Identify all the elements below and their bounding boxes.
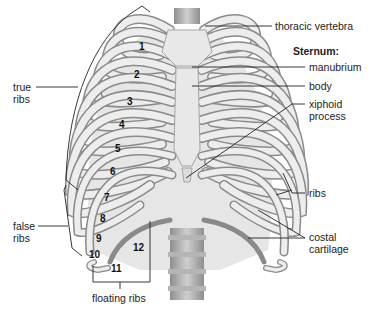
rib-number-7: 7 [104, 193, 110, 203]
label-true-ribs-line1: true [13, 81, 31, 93]
label-false-ribs-line1: false [13, 220, 35, 232]
label-xiphoid-line1: xiphoid [309, 98, 342, 110]
rib-number-12: 12 [133, 243, 144, 253]
rib-number-2: 2 [134, 70, 140, 80]
rib-number-11: 11 [111, 264, 122, 274]
rib-number-6: 6 [110, 167, 116, 177]
label-xiphoid-line2: process [309, 110, 346, 122]
label-ribs: ribs [309, 187, 326, 199]
label-sternum-heading: Sternum: [293, 45, 339, 57]
rib-number-10: 10 [89, 250, 100, 260]
label-sternum-body: body [309, 80, 332, 92]
label-false-ribs-line2: ribs [13, 232, 30, 244]
rib-number-4: 4 [119, 120, 125, 130]
rib-number-1: 1 [139, 42, 145, 52]
label-manubrium: manubrium [309, 61, 362, 73]
label-costal-line2: cartilage [309, 243, 349, 255]
label-floating-ribs: floating ribs [92, 292, 146, 304]
thoracic-cage-diagram: thoracic vertebra Sternum: manubrium bod… [0, 0, 376, 314]
rib-number-3: 3 [127, 97, 133, 107]
rib-number-5: 5 [115, 144, 121, 154]
rib-number-9: 9 [96, 234, 102, 244]
label-true-ribs-line2: ribs [13, 93, 30, 105]
rib-number-8: 8 [100, 214, 106, 224]
label-thoracic-vertebra: thoracic vertebra [275, 20, 353, 32]
label-costal-line1: costal [309, 231, 336, 243]
